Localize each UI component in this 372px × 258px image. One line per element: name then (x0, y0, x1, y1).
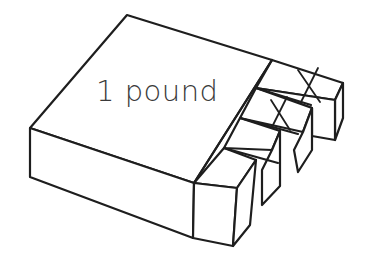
block-diagram (0, 0, 372, 258)
weight-label: 1 pound (96, 74, 219, 108)
small-block-4-front (193, 183, 237, 246)
